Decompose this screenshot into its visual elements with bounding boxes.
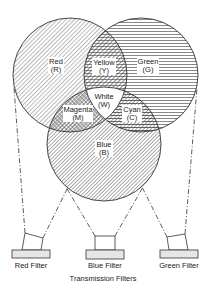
- additive-color-diagram: Red (R) Green (G) Yellow (Y) White (W) M…: [0, 0, 209, 298]
- red-projector: [12, 233, 50, 258]
- green-projector: [160, 234, 198, 258]
- red-filter-label: Red Filter: [15, 261, 48, 270]
- diagram-caption: Transmission Filters: [70, 274, 137, 283]
- label-blue-abbr: (B): [99, 148, 110, 157]
- label-magenta-abbr: (M): [72, 113, 84, 122]
- label-white-abbr: (W): [98, 100, 111, 109]
- label-cyan-abbr: (C): [127, 113, 138, 122]
- green-filter-label: Green Filter: [159, 261, 199, 270]
- blue-filter-label: Blue Filter: [88, 261, 122, 270]
- blue-projector: [86, 236, 124, 259]
- label-yellow-abbr: (Y): [99, 66, 110, 75]
- label-green-abbr: (G): [143, 65, 154, 74]
- label-red-abbr: (R): [51, 65, 62, 74]
